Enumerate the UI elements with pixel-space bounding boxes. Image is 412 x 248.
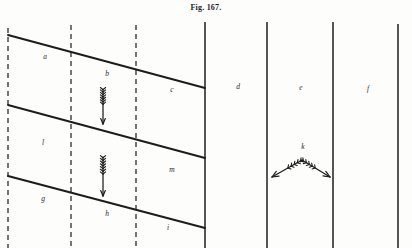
label-e: e: [299, 84, 302, 92]
figure-container: Fig. 167. abcdeflmkghi: [0, 0, 412, 248]
label-h: h: [105, 210, 109, 218]
label-l: l: [42, 139, 44, 147]
arrows-group: [100, 87, 330, 196]
label-k: k: [301, 143, 304, 151]
arrow-down-right: [300, 158, 330, 177]
label-b: b: [105, 70, 109, 78]
sloping-line: [8, 105, 205, 158]
label-d: d: [236, 83, 240, 91]
label-f: f: [367, 85, 369, 93]
label-c: c: [170, 86, 173, 94]
label-a: a: [43, 53, 47, 61]
sloping-line: [8, 35, 205, 88]
arrow-down: [100, 87, 105, 124]
label-m: m: [169, 166, 174, 174]
label-i: i: [167, 224, 169, 232]
sloping-lines-group: [8, 35, 205, 228]
arrow-fletch-barb: [291, 166, 294, 167]
arrow-down-left: [272, 158, 303, 177]
arrow-down: [100, 156, 105, 196]
figure-drawing-canvas: [0, 0, 412, 248]
arrow-head-barb: [272, 176, 279, 177]
sloping-line: [8, 176, 205, 228]
label-g: g: [41, 195, 45, 203]
vertical-lines-group: [8, 22, 398, 248]
arrow-fletch-barb: [297, 163, 300, 164]
arrow-fletch-barb: [294, 164, 297, 165]
arrow-fletch-barb: [288, 168, 291, 169]
